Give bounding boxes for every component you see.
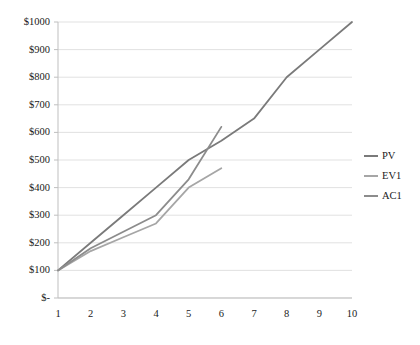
y-axis-tick-label: $1000 <box>0 17 50 28</box>
x-axis-tick-label: 10 <box>337 309 367 320</box>
x-axis-tick-label: 4 <box>141 309 171 320</box>
legend-item-label: EV1 <box>382 171 401 182</box>
legend-swatch-icon <box>364 155 378 157</box>
series-line-ev1 <box>58 168 221 270</box>
x-axis-tick-label: 1 <box>43 309 73 320</box>
y-axis-tick-label: $800 <box>0 72 50 83</box>
chart-legend: PVEV1AC1 <box>364 146 402 206</box>
y-axis-tick-label: $- <box>0 293 50 304</box>
y-axis-tick-label: $700 <box>0 100 50 111</box>
series-line-pv <box>58 22 352 270</box>
line-chart: $-$100$200$300$400$500$600$700$800$900$1… <box>0 0 420 345</box>
gridlines <box>58 22 352 298</box>
x-axis-tick-label: 2 <box>76 309 106 320</box>
legend-item-label: PV <box>382 151 395 162</box>
y-axis-tick-label: $200 <box>0 238 50 249</box>
y-axis-tick-label: $400 <box>0 183 50 194</box>
x-axis-tick-label: 5 <box>174 309 204 320</box>
legend-item-ev1: EV1 <box>364 166 402 186</box>
x-axis-tick-label: 7 <box>239 309 269 320</box>
legend-swatch-icon <box>364 195 378 197</box>
y-axis-tick-label: $900 <box>0 45 50 56</box>
y-axis-tick-label: $500 <box>0 155 50 166</box>
legend-swatch-icon <box>364 175 378 177</box>
x-axis-tick-label: 9 <box>304 309 334 320</box>
y-axis-tick-label: $100 <box>0 265 50 276</box>
plot-area <box>0 0 420 345</box>
x-axis-tick-label: 3 <box>108 309 138 320</box>
y-axis-tick-label: $300 <box>0 210 50 221</box>
x-axis-tick-label: 8 <box>272 309 302 320</box>
y-axis-tick-label: $600 <box>0 127 50 138</box>
series-lines <box>58 22 352 270</box>
legend-item-label: AC1 <box>382 191 402 202</box>
legend-item-pv: PV <box>364 146 402 166</box>
x-axis-tick-label: 6 <box>206 309 236 320</box>
legend-item-ac1: AC1 <box>364 186 402 206</box>
